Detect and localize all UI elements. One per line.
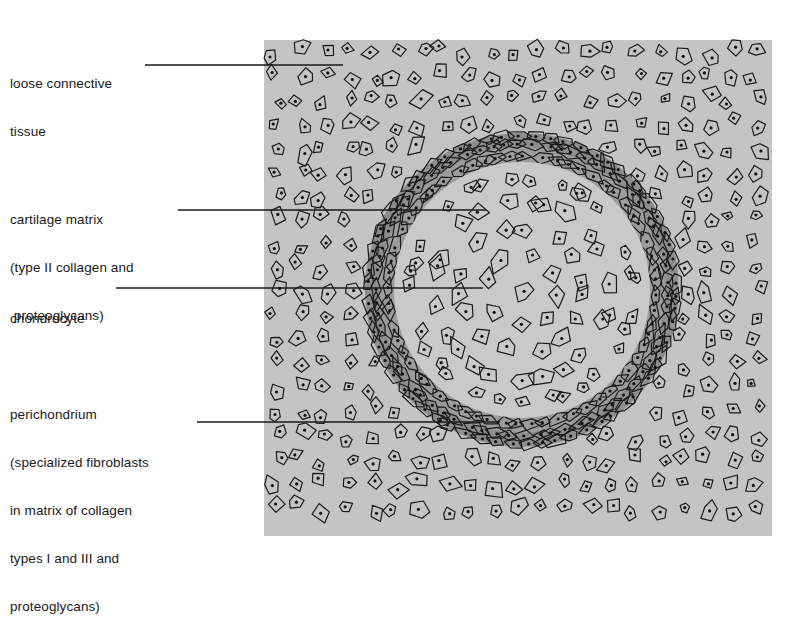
label-line: loose connective <box>10 76 112 92</box>
label-line: types I and III and <box>10 551 149 567</box>
label-perichondrium: perichondrium (specialized fibroblasts i… <box>10 375 149 618</box>
label-line: proteoglycans) <box>10 599 149 615</box>
label-chondrocyte: chondrocyte <box>10 279 85 343</box>
label-line: perichondrium <box>10 407 149 423</box>
label-line: chondrocyte <box>10 311 85 327</box>
label-line: tissue <box>10 124 112 140</box>
label-line: (specialized fibroblasts <box>10 455 149 471</box>
label-line: in matrix of collagen <box>10 503 149 519</box>
label-line: (type II collagen and <box>10 260 134 276</box>
label-line: cartilage matrix <box>10 212 134 228</box>
label-loose-connective-tissue: loose connective tissue <box>10 44 112 156</box>
